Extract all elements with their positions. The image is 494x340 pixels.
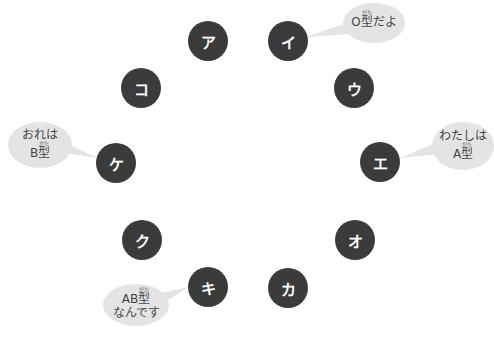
node-label: ア [201, 31, 216, 52]
speech-bubble-o-type: Oがた型だよ [343, 3, 405, 43]
node-label: ケ [109, 153, 124, 174]
node-label: カ [281, 278, 296, 299]
kanji: 型 [361, 15, 373, 29]
node-label: キ [201, 277, 216, 298]
kanji-with-ruby: がた型 [38, 147, 50, 161]
bubble-line: Bがた型 [30, 147, 50, 161]
bubble-line: なんです [113, 307, 160, 321]
node-label: オ [348, 230, 363, 251]
bubble-line: Oがた型だよ [351, 16, 396, 30]
node-ku: ク [122, 220, 162, 260]
node-e: エ [360, 142, 400, 182]
node-u: ウ [334, 68, 374, 108]
blood-type-letter: O [351, 15, 360, 29]
node-o: オ [335, 220, 375, 260]
kanji-with-ruby: がた型 [361, 16, 373, 30]
node-label: エ [373, 152, 388, 173]
bubble-line: Aがた型 [453, 148, 473, 162]
node-label: コ [134, 78, 149, 99]
bubble-text: だよ [373, 15, 397, 29]
node-ki: キ [188, 267, 228, 307]
ruby-text: がた [39, 141, 49, 146]
node-ko: コ [121, 68, 161, 108]
node-i: イ [268, 21, 308, 61]
kanji-with-ruby: がた型 [461, 148, 473, 162]
blood-type-letter: A [453, 147, 461, 161]
kanji: 型 [38, 146, 50, 160]
node-ke: ケ [96, 143, 136, 183]
ruby-text: がた [362, 10, 372, 15]
blood-type-letter: AB [122, 292, 138, 306]
kanji: 型 [138, 292, 150, 306]
ruby-text: がた [462, 142, 472, 147]
speech-bubble-tails [0, 0, 494, 340]
node-ka: カ [268, 268, 308, 308]
speech-bubble-ab-type: ABがた型 なんです [103, 284, 169, 326]
kanji-with-ruby: がた型 [138, 293, 150, 307]
speech-bubble-b-type: おれは Bがた型 [8, 122, 72, 168]
node-label: ク [135, 230, 150, 251]
ruby-text: がた [139, 287, 149, 292]
node-label: イ [281, 31, 296, 52]
node-label: ウ [347, 78, 362, 99]
speech-bubble-a-type: わたしは Aがた型 [432, 122, 494, 170]
blood-type-letter: B [30, 146, 38, 160]
node-a: ア [188, 21, 228, 61]
bubble-line: ABがた型 [122, 293, 150, 307]
kanji: 型 [461, 147, 473, 161]
